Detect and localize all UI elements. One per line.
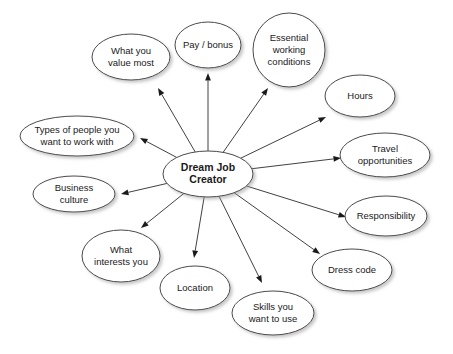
node-label-line: Dress code	[328, 264, 376, 275]
node-label-line: want to use	[248, 312, 298, 323]
node-label-line: Creator	[189, 173, 226, 185]
arrowhead-icon	[261, 88, 268, 96]
node-label-line: Dream Job	[181, 160, 235, 172]
edge-pay-bonus	[205, 73, 211, 151]
arrowhead-icon	[158, 88, 164, 96]
arrowhead-icon	[318, 117, 326, 123]
branch-node-what-you-value-most[interactable]: What youvalue most	[92, 34, 170, 80]
edge-business-culture	[121, 183, 167, 195]
mind-map-canvas: What youvalue mostPay / bonusEssentialwo…	[0, 0, 453, 354]
branch-node-dress-code[interactable]: Dress code	[312, 249, 392, 291]
branch-node-location[interactable]: Location	[160, 266, 230, 310]
node-label: What youvalue most	[108, 45, 154, 68]
mind-map-svg: What youvalue mostPay / bonusEssentialwo…	[0, 0, 453, 354]
node-label: Pay / bonus	[183, 39, 233, 50]
node-label-line: Pay / bonus	[183, 39, 233, 50]
edge-hours	[241, 117, 326, 158]
edge-responsibility	[246, 186, 346, 218]
node-label-line: Types of people you	[34, 124, 119, 135]
arrowhead-icon	[312, 247, 320, 254]
edge-line	[234, 193, 314, 250]
node-label-line: interests you	[94, 255, 148, 266]
arrowhead-icon	[140, 138, 148, 144]
edge-line	[219, 196, 259, 276]
edge-essential-working-conditions	[223, 88, 268, 152]
arrowhead-icon	[141, 221, 149, 228]
edge-line	[223, 94, 264, 152]
node-label: Essentialworkingconditions	[268, 32, 311, 66]
node-label-line: What	[110, 244, 133, 255]
edge-line	[128, 183, 167, 192]
node-label-line: What you	[111, 45, 151, 56]
node-label: Responsibility	[357, 210, 416, 221]
edge-dress-code	[234, 193, 320, 254]
node-label: Hours	[347, 90, 373, 101]
edge-line	[195, 197, 204, 251]
edge-line	[252, 159, 334, 169]
arrowhead-icon	[205, 73, 211, 81]
node-label: Location	[177, 282, 213, 293]
edge-what-you-value-most	[158, 88, 195, 152]
edge-line	[246, 186, 338, 215]
node-label-line: culture	[60, 193, 89, 204]
arrowhead-icon	[256, 275, 262, 283]
node-label-line: Essential	[270, 32, 309, 43]
node-label-line: opportunities	[358, 154, 413, 165]
branch-node-types-of-people-you-want-to-work-with[interactable]: Types of people youwant to work with	[20, 116, 134, 156]
node-label-line: Skills you	[253, 301, 293, 312]
node-label-line: working	[272, 44, 306, 55]
node-label-line: Location	[177, 282, 213, 293]
edge-types-of-people-you-want-to-work-with	[140, 138, 177, 157]
nodes-layer: What youvalue mostPay / bonusEssentialwo…	[20, 13, 430, 335]
branch-node-hours[interactable]: Hours	[325, 75, 395, 117]
edge-line	[147, 193, 184, 223]
branch-node-what-interests-you[interactable]: Whatinterests you	[82, 230, 160, 282]
node-label-line: Responsibility	[357, 210, 416, 221]
node-label: Businessculture	[55, 182, 94, 205]
edge-line	[147, 142, 177, 158]
edge-line	[162, 94, 195, 151]
node-label-line: Travel	[372, 143, 398, 154]
node-label-line: value most	[108, 56, 154, 67]
branch-node-responsibility[interactable]: Responsibility	[345, 196, 427, 236]
edge-location	[192, 197, 204, 258]
node-label-line: conditions	[268, 55, 311, 66]
node-label: Types of people youwant to work with	[34, 124, 119, 147]
branch-node-pay-bonus[interactable]: Pay / bonus	[175, 22, 241, 68]
central-node-dream-job-creator[interactable]: Dream JobCreator	[163, 151, 253, 197]
node-label-line: Business	[55, 182, 94, 193]
edge-line	[241, 120, 320, 158]
edge-skills-you-want-to-use	[219, 196, 262, 283]
branch-node-skills-you-want-to-use[interactable]: Skills youwant to use	[232, 291, 314, 335]
edge-what-interests-you	[141, 193, 184, 228]
branch-node-essential-working-conditions[interactable]: Essentialworkingconditions	[253, 13, 325, 87]
node-label-line: want to work with	[40, 135, 114, 146]
node-label-line: Hours	[347, 90, 373, 101]
arrowhead-icon	[121, 189, 129, 195]
node-label: Dress code	[328, 264, 376, 275]
branch-node-travel-opportunities[interactable]: Travelopportunities	[340, 133, 430, 177]
arrowhead-icon	[192, 250, 198, 258]
node-label: Skills youwant to use	[248, 301, 298, 324]
edge-travel-opportunities	[252, 156, 341, 169]
branch-node-business-culture[interactable]: Businessculture	[33, 176, 115, 212]
